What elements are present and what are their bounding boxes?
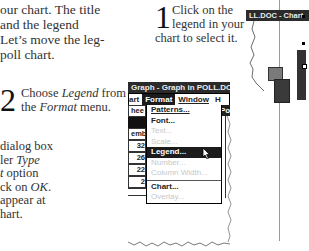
- torn-edge: [128, 240, 230, 250]
- format-emphasis: Format: [39, 100, 77, 114]
- legend-emphasis: Legend: [62, 86, 99, 100]
- intro-line: our chart. The title: [0, 2, 105, 17]
- menu-screenshot: Graph - Graph in POLL.DOC artFormatWindo…: [128, 82, 230, 251]
- intro-line: and the legend: [0, 17, 105, 32]
- format-dropdown: Patterns... Font... Text... Scale... Leg…: [146, 105, 222, 204]
- torn-right-edge: [226, 116, 234, 242]
- step-1-line: Click on the: [172, 3, 244, 17]
- step-1-text: Click on the legend in your: [172, 3, 244, 31]
- menu-chart[interactable]: art: [129, 94, 142, 105]
- menu-item-text[interactable]: Text...: [147, 126, 221, 137]
- menu-item-column-width[interactable]: Column Width...: [147, 168, 221, 179]
- legend-handle[interactable]: [302, 42, 305, 45]
- intro-line: Let’s move the leg-: [0, 32, 105, 47]
- menu-item-legend[interactable]: Legend...: [147, 147, 221, 158]
- menu-item-patterns[interactable]: Patterns...: [147, 105, 221, 116]
- menu-separator: [147, 180, 221, 181]
- legend-handle[interactable]: [302, 64, 307, 69]
- menu-item-font[interactable]: Font...: [147, 116, 221, 127]
- menu-item-overlay[interactable]: Overlay...: [147, 192, 221, 203]
- menu-help[interactable]: H: [212, 94, 224, 105]
- step-3-text: dialog box ler Type t option ck on OK. a…: [0, 140, 53, 221]
- menu-window[interactable]: Window: [175, 94, 212, 105]
- intro-line: poll chart.: [0, 47, 105, 62]
- chart-window-title: LL.DOC - Chart: [246, 10, 309, 21]
- step-2-number: 2: [0, 86, 16, 114]
- menu-item-scale[interactable]: Scale...: [147, 137, 221, 148]
- window-title: Graph - Graph in POLL.DOC: [128, 82, 230, 93]
- step-1-line: legend in your: [172, 17, 244, 31]
- sheet-strip: hee emb 32 26 22 2: [128, 105, 146, 196]
- chart-bar-dark: [274, 79, 290, 103]
- menu-item-chart[interactable]: Chart...: [147, 182, 221, 193]
- menu-item-number[interactable]: Number...: [147, 158, 221, 169]
- step-1-number: 1: [155, 3, 171, 31]
- step-1-text-cont: chart to select it.: [155, 31, 238, 45]
- chart-screenshot: LL.DOC - Chart: [246, 10, 306, 90]
- legend-handle[interactable]: [302, 15, 305, 18]
- menu-format[interactable]: Format: [142, 94, 175, 105]
- chart-bar-right: [297, 50, 306, 100]
- step-2-text: Choose Legend from the Format menu.: [21, 86, 126, 114]
- cursor-arrow-icon: [202, 148, 211, 159]
- intro-paragraph: our chart. The title and the legend Let’…: [0, 2, 105, 62]
